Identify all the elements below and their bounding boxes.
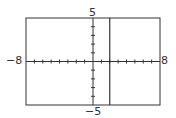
ymax-label: 5: [89, 7, 96, 18]
xmax-label: 8: [161, 55, 168, 66]
xmin-label: −8: [6, 55, 22, 66]
axes: [26, 18, 160, 105]
ymin-label: −5: [85, 106, 101, 117]
graph-window: [0, 0, 176, 118]
